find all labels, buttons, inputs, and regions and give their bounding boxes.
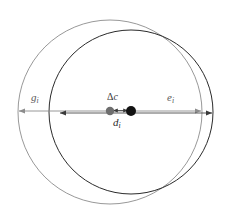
label-d-subscript: i [119, 121, 121, 130]
label-g-i: gi [31, 92, 39, 105]
label-delta-c-base: c [113, 91, 117, 102]
inner-center-dot [126, 106, 136, 116]
circle-geometry-canvas [0, 0, 231, 215]
label-d-i: di [113, 117, 121, 130]
label-e-subscript: i [172, 96, 174, 105]
label-e-i: ei [167, 92, 174, 105]
outer-center-dot [106, 107, 114, 115]
label-g-subscript: i [37, 96, 39, 105]
geometry-figure: gi ei Δc di [0, 0, 231, 215]
label-delta-c: Δc [107, 92, 118, 102]
